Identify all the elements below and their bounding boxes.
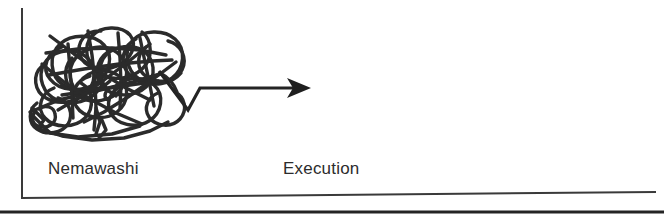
- tangled-scribble: [30, 28, 185, 140]
- diagram-canvas: Nemawashi Execution: [0, 0, 664, 217]
- phase-label-nemawashi: Nemawashi: [48, 160, 139, 177]
- horizontal-axis: [22, 192, 655, 198]
- phase-label-execution: Execution: [283, 160, 359, 177]
